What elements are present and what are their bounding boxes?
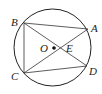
segment-ab [24, 23, 88, 29]
circle-figure: B A C D O E [0, 0, 102, 94]
diagonal-ac [24, 29, 88, 73]
segment-cd [24, 66, 87, 73]
label-a: A [90, 22, 98, 34]
diagonal-bd [24, 23, 87, 66]
label-c: C [11, 70, 19, 82]
geometry-diagram: B A C D O E [0, 0, 102, 94]
center-point-o [52, 46, 56, 50]
label-b: B [11, 16, 18, 28]
label-e: E [65, 42, 73, 54]
label-d: D [88, 65, 97, 77]
label-o: O [40, 42, 48, 54]
